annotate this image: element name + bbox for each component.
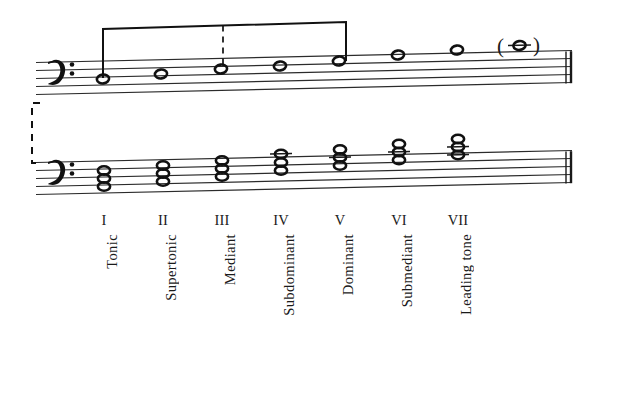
lower-staff-lines	[36, 151, 572, 195]
chord-degree-4	[270, 150, 292, 175]
chord-degree-2	[157, 161, 169, 186]
chord-degree-3	[216, 156, 228, 181]
note-degree-1	[96, 74, 109, 84]
chord-degree-7	[447, 135, 469, 160]
octave-tonic-optional: ( )	[497, 33, 540, 58]
system-brace	[32, 103, 40, 163]
upper-staff-lines	[36, 51, 572, 95]
upper-double-barline	[566, 51, 571, 83]
degree-name-4: Subdominant	[281, 234, 298, 316]
music-notation-figure: ( )	[0, 0, 622, 393]
roman-numeral-6: VI	[391, 212, 407, 229]
note-degree-7	[450, 45, 463, 55]
upper-staff-group: ( )	[36, 22, 572, 95]
degree-name-2: Supertonic	[163, 234, 180, 301]
roman-numeral-4: IV	[273, 212, 289, 229]
roman-numeral-3: III	[214, 212, 229, 229]
degree-name-6: Submediant	[399, 234, 416, 307]
note-degree-2	[154, 69, 167, 79]
triad-chords	[98, 135, 469, 191]
degree-name-7: Leading tone	[458, 234, 475, 315]
notation-canvas: ( )	[0, 0, 622, 393]
roman-numeral-7: VII	[448, 212, 469, 229]
note-degree-4	[273, 61, 286, 71]
note-degree-3	[214, 64, 227, 74]
octave-tonic-ledger	[508, 45, 531, 46]
bass-clef-lower	[48, 160, 74, 185]
lower-double-barline	[566, 151, 571, 183]
tetrachord-bracket	[103, 22, 346, 78]
paren-close: )	[533, 33, 540, 57]
bass-clef-upper	[48, 60, 74, 85]
degree-name-3: Mediant	[222, 234, 239, 285]
degree-name-1: Tonic	[104, 234, 121, 269]
roman-numeral-2: II	[158, 212, 168, 229]
degree-name-5: Dominant	[340, 234, 357, 295]
chord-degree-1	[98, 166, 110, 191]
roman-numeral-1: I	[101, 212, 106, 229]
chord-degree-6	[388, 140, 410, 165]
chord-degree-5	[329, 145, 351, 170]
lower-staff-group	[36, 135, 572, 195]
paren-open: (	[497, 34, 504, 58]
roman-numeral-5: V	[335, 212, 346, 229]
note-degree-5	[332, 56, 345, 66]
